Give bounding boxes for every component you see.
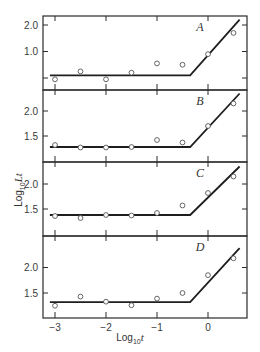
data-point bbox=[104, 213, 109, 218]
panel-frame bbox=[43, 90, 247, 162]
data-point bbox=[231, 101, 236, 106]
y-tick-label: 1.5 bbox=[24, 131, 38, 142]
panel-a: 1.02.0A bbox=[24, 16, 247, 90]
y-tick-label: 2.0 bbox=[24, 20, 38, 31]
panels: 1.02.0A1.52.0B1.52.0C1.52.0D bbox=[24, 16, 247, 318]
data-point bbox=[180, 203, 185, 208]
x-tick-label: −1 bbox=[151, 322, 163, 333]
data-point bbox=[180, 62, 185, 67]
panel-label: D bbox=[195, 240, 205, 254]
data-point bbox=[78, 294, 83, 299]
x-tick-label: 0 bbox=[205, 322, 211, 333]
figure: 1.02.0A1.52.0B1.52.0C1.52.0D −3−2−10 Log… bbox=[0, 0, 260, 352]
fit-line bbox=[50, 248, 240, 302]
panel-frame bbox=[43, 162, 247, 236]
data-point bbox=[78, 145, 83, 150]
data-point bbox=[231, 174, 236, 179]
data-point bbox=[104, 145, 109, 150]
x-axis-title: Log10t bbox=[116, 331, 144, 345]
data-point bbox=[53, 303, 58, 308]
y-tick-label: 1.5 bbox=[24, 288, 38, 299]
data-point bbox=[231, 31, 236, 36]
data-point bbox=[53, 77, 58, 82]
fit-line bbox=[50, 94, 240, 148]
data-point bbox=[129, 145, 134, 150]
data-point bbox=[155, 211, 160, 216]
data-point bbox=[129, 303, 134, 308]
data-point bbox=[231, 256, 236, 261]
panel-label: C bbox=[196, 166, 205, 180]
x-tick-label: −2 bbox=[100, 322, 112, 333]
panel-label: A bbox=[195, 20, 204, 34]
y-tick-label: 1.5 bbox=[24, 204, 38, 215]
x-tick-label: −3 bbox=[49, 322, 61, 333]
data-point bbox=[78, 69, 83, 74]
data-point bbox=[180, 291, 185, 296]
data-point bbox=[180, 140, 185, 145]
y-tick-label: 2.0 bbox=[24, 262, 38, 273]
data-point bbox=[129, 213, 134, 218]
data-point bbox=[53, 143, 58, 148]
data-point bbox=[155, 138, 160, 143]
panel-frame bbox=[43, 236, 247, 318]
panel-c: 1.52.0C bbox=[24, 162, 247, 236]
panel-d: 1.52.0D bbox=[24, 236, 247, 318]
panel-frame bbox=[43, 16, 247, 90]
data-point bbox=[53, 214, 58, 219]
data-point bbox=[78, 216, 83, 221]
data-point bbox=[104, 299, 109, 304]
y-tick-label: 2.0 bbox=[24, 179, 38, 190]
data-point bbox=[155, 296, 160, 301]
panel-label: B bbox=[196, 94, 204, 108]
data-point bbox=[155, 61, 160, 66]
y-tick-label: 1.0 bbox=[24, 46, 38, 57]
data-point bbox=[206, 124, 211, 129]
y-axis-title: Log10Lt bbox=[12, 172, 26, 207]
y-tick-label: 2.0 bbox=[24, 106, 38, 117]
panel-b: 1.52.0B bbox=[24, 90, 247, 162]
data-point bbox=[206, 191, 211, 196]
data-point bbox=[206, 273, 211, 278]
fit-line bbox=[50, 167, 240, 216]
data-point bbox=[129, 70, 134, 75]
data-point bbox=[104, 77, 109, 82]
fit-line bbox=[50, 20, 240, 76]
data-point bbox=[206, 52, 211, 57]
